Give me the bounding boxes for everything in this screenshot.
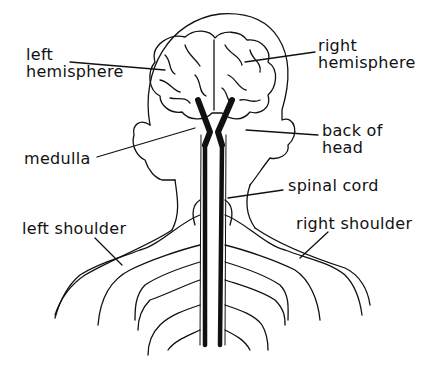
leader-back-of-head [246,130,318,135]
label-line: back of [322,122,383,139]
leader-right-hemisphere [245,52,315,62]
left-shoulder-outline [55,230,172,315]
label-line: head [322,139,383,156]
label-line: hemisphere [26,63,124,80]
label-line: hemisphere [318,54,416,71]
label-right-shoulder: right shoulder [296,215,412,232]
label-line: right [318,37,416,54]
head-left-side [133,122,175,180]
leader-right-shoulder [300,232,328,258]
leader-medulla [97,128,195,157]
brainstem [198,100,232,145]
label-back-of-head: back of head [322,122,383,156]
label-left-shoulder: left shoulder [22,220,126,237]
leader-spinal-cord [228,190,283,198]
spinal-cord [205,145,222,345]
label-line: left [26,46,124,63]
label-medulla: medulla [24,150,91,167]
brain [150,31,276,119]
label-right-hemisphere: right hemisphere [318,37,416,71]
right-shoulder-outline [255,228,370,305]
neck-right [247,185,255,228]
label-left-hemisphere: left hemisphere [26,46,124,80]
neck-left [172,180,178,230]
label-spinal-cord: spinal cord [288,177,379,194]
